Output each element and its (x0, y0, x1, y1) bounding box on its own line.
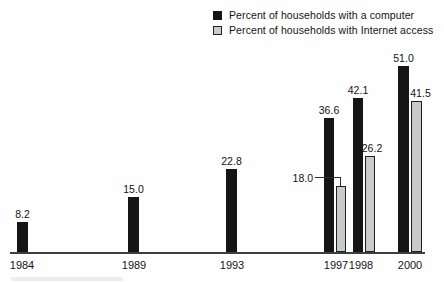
value-label-computer-1997: 36.6 (319, 104, 339, 116)
leader-line-vertical (340, 177, 341, 186)
bar-computer-2000 (398, 66, 409, 252)
bar-internet-1997 (336, 186, 346, 252)
year-label-1989: 1989 (122, 259, 146, 272)
bar-computer-1984 (17, 222, 28, 252)
value-label-internet-1998: 26.2 (362, 142, 382, 154)
legend-label-computer: Percent of households with a computer (229, 8, 414, 23)
year-label-1997: 1997 (324, 259, 348, 272)
bar-computer-1989 (128, 197, 139, 252)
bar-internet-1998 (365, 156, 375, 252)
value-label-computer-1989: 15.0 (123, 183, 143, 195)
chart-legend: Percent of households with a computer Pe… (213, 8, 433, 38)
x-axis-line (10, 252, 425, 254)
value-label-computer-2000: 51.0 (393, 52, 413, 64)
legend-item-computer: Percent of households with a computer (213, 8, 433, 23)
value-label-computer-1984: 8.2 (15, 208, 30, 220)
value-label-internet-2000: 41.5 (410, 87, 430, 99)
year-label-2000: 2000 (398, 259, 422, 272)
year-label-1984: 1984 (10, 259, 34, 272)
bar-internet-2000 (411, 101, 422, 252)
cropped-source-note-artifact (11, 277, 123, 281)
value-label-computer-1998: 42.1 (348, 84, 368, 96)
value-label-computer-1993: 22.8 (221, 155, 241, 167)
year-label-1998: 1998 (349, 259, 373, 272)
value-label-internet-1997: 18.0 (293, 172, 313, 184)
households-computer-internet-bar-chart: Percent of households with a computer Pe… (0, 0, 444, 282)
legend-swatch-computer-icon (213, 11, 222, 20)
leader-line-horizontal (315, 177, 341, 178)
bar-computer-1997 (324, 118, 334, 252)
legend-swatch-internet-icon (213, 26, 222, 35)
bar-computer-1998 (353, 98, 363, 252)
legend-label-internet: Percent of households with Internet acce… (229, 23, 433, 38)
legend-item-internet: Percent of households with Internet acce… (213, 23, 433, 38)
year-label-1993: 1993 (220, 259, 244, 272)
bar-computer-1993 (226, 169, 237, 252)
